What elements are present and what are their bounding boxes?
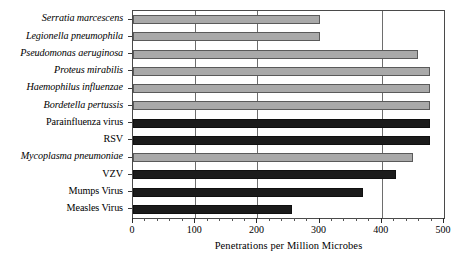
bar-row bbox=[133, 132, 444, 149]
bar bbox=[133, 101, 430, 110]
category-label: Measles Virus bbox=[0, 200, 128, 217]
category-label: VZV bbox=[0, 165, 128, 182]
bar bbox=[133, 136, 430, 145]
x-tick-minor bbox=[244, 218, 245, 221]
x-tick-minor bbox=[368, 218, 369, 221]
x-tick-minor bbox=[157, 218, 158, 221]
category-label: RSV bbox=[0, 131, 128, 148]
x-tick-minor bbox=[393, 218, 394, 221]
bar-row bbox=[133, 28, 444, 45]
x-tick-minor bbox=[406, 218, 407, 221]
category-label: Serratia marcescens bbox=[0, 10, 128, 27]
category-label: Bordetella pertussis bbox=[0, 96, 128, 113]
bar-row bbox=[133, 63, 444, 80]
bar bbox=[133, 188, 363, 197]
category-label: Mumps Virus bbox=[0, 183, 128, 200]
x-tick-minor bbox=[207, 218, 208, 221]
category-label: Mycoplasma pneumoniae bbox=[0, 148, 128, 165]
x-tick-label: 400 bbox=[373, 224, 388, 235]
bar bbox=[133, 205, 292, 214]
bar bbox=[133, 119, 430, 128]
bar bbox=[133, 153, 413, 162]
bar bbox=[133, 15, 320, 24]
x-tick-label: 500 bbox=[436, 224, 451, 235]
x-tick-major bbox=[256, 218, 257, 223]
bar-row bbox=[133, 11, 444, 28]
bar bbox=[133, 32, 320, 41]
x-tick-label: 100 bbox=[187, 224, 202, 235]
x-tick-major bbox=[381, 218, 382, 223]
x-tick-label: 200 bbox=[249, 224, 264, 235]
bar-row bbox=[133, 80, 444, 97]
bar-chart-figure: Serratia marcescensLegionella pneumophil… bbox=[0, 0, 462, 264]
x-tick-minor bbox=[431, 218, 432, 221]
category-label: Parainfluenza virus bbox=[0, 114, 128, 131]
bar-row bbox=[133, 115, 444, 132]
x-tick-major bbox=[319, 218, 320, 223]
x-tick-minor bbox=[182, 218, 183, 221]
category-label-axis: Serratia marcescensLegionella pneumophil… bbox=[0, 10, 128, 217]
x-tick-minor bbox=[269, 218, 270, 221]
category-label: Pseudomonas aeruginosa bbox=[0, 45, 128, 62]
bar bbox=[133, 170, 396, 179]
x-tick-minor bbox=[144, 218, 145, 221]
bar-row bbox=[133, 97, 444, 114]
bar bbox=[133, 50, 418, 59]
bar-series bbox=[133, 11, 444, 218]
x-tick-minor bbox=[232, 218, 233, 221]
x-tick-minor bbox=[294, 218, 295, 221]
x-tick-minor bbox=[331, 218, 332, 221]
x-axis-title: Penetrations per Million Microbes bbox=[132, 240, 445, 251]
x-axis-tick-labels: 0100200300400500 bbox=[132, 224, 445, 238]
bar-row bbox=[133, 149, 444, 166]
x-tick-minor bbox=[343, 218, 344, 221]
x-tick-minor bbox=[219, 218, 220, 221]
x-tick-major bbox=[443, 218, 444, 223]
x-tick-minor bbox=[306, 218, 307, 221]
x-tick-minor bbox=[418, 218, 419, 221]
bar bbox=[133, 84, 430, 93]
x-tick-major bbox=[132, 218, 133, 223]
x-tick-minor bbox=[356, 218, 357, 221]
x-tick-minor bbox=[281, 218, 282, 221]
x-tick-minor bbox=[169, 218, 170, 221]
x-tick-label: 0 bbox=[130, 224, 135, 235]
x-tick-label: 300 bbox=[311, 224, 326, 235]
category-label: Haemophilus influenzae bbox=[0, 79, 128, 96]
bar-row bbox=[133, 184, 444, 201]
bar-row bbox=[133, 166, 444, 183]
bar-row bbox=[133, 201, 444, 218]
category-label: Proteus mirabilis bbox=[0, 62, 128, 79]
plot-area bbox=[132, 10, 445, 219]
bar bbox=[133, 67, 430, 76]
bar-row bbox=[133, 46, 444, 63]
plot-inner bbox=[133, 11, 444, 218]
category-label: Legionella pneumophila bbox=[0, 27, 128, 44]
x-tick-major bbox=[194, 218, 195, 223]
